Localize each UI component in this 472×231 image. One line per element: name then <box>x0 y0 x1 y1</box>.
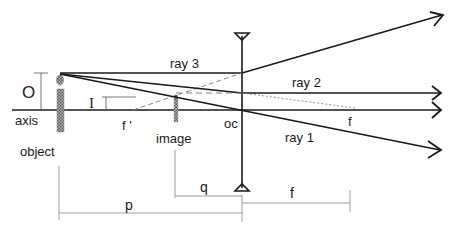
object-arrow <box>57 75 65 132</box>
label-ray-3: ray 3 <box>170 56 199 71</box>
ray-1 <box>60 74 441 158</box>
ray-3 <box>60 12 443 110</box>
label-focal-length: f <box>290 185 294 201</box>
label-object-distance: p <box>125 197 133 213</box>
ray-diagram: O I axis object image f ' oc f ray 1 ray… <box>0 0 472 231</box>
label-focal-near: f ' <box>122 118 132 133</box>
image-arrow <box>174 95 178 123</box>
label-optical-center: oc <box>224 116 238 131</box>
object-height-marker <box>34 73 48 110</box>
dimension-f <box>242 190 350 212</box>
label-axis: axis <box>15 113 39 128</box>
label-ray-2: ray 2 <box>292 75 321 90</box>
label-object: object <box>20 144 55 159</box>
dimension-p <box>59 166 242 222</box>
ray-2 <box>60 74 441 108</box>
label-ray-1: ray 1 <box>285 130 314 145</box>
label-object-height: O <box>22 83 35 102</box>
label-image-height: I <box>89 95 94 111</box>
label-image: image <box>156 131 191 146</box>
diagram-canvas: O I axis object image f ' oc f ray 1 ray… <box>0 0 472 231</box>
dimension-q <box>175 150 242 198</box>
image-height-marker <box>102 97 136 110</box>
label-image-distance: q <box>200 179 208 195</box>
label-focal-far: f <box>348 114 352 129</box>
